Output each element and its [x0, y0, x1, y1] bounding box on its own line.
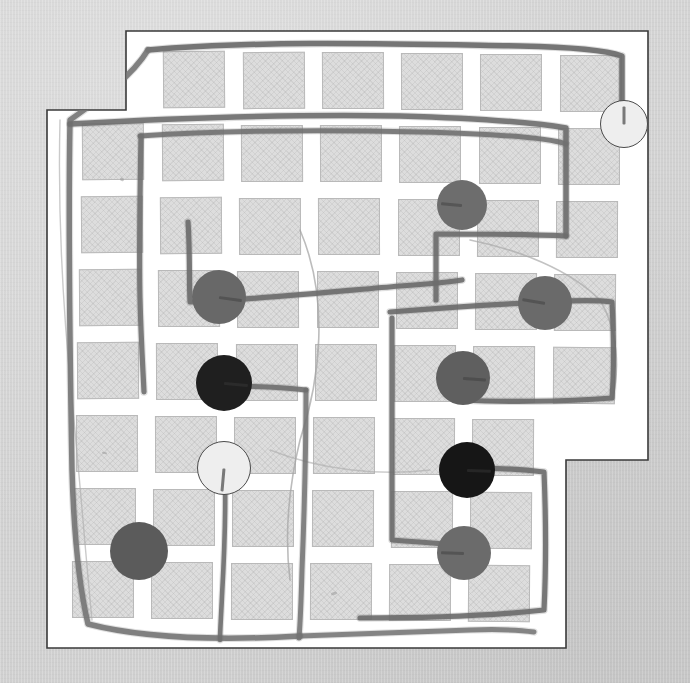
token-layer	[0, 0, 690, 683]
token-gray-bottom-left[interactable]	[110, 522, 168, 580]
token-gray-right-mid[interactable]	[518, 276, 572, 330]
token-gray-right-low[interactable]	[436, 351, 490, 405]
token-black-left[interactable]	[196, 355, 252, 411]
token-gray-left-upper[interactable]	[192, 270, 246, 324]
token-black-right-low[interactable]	[439, 442, 495, 498]
token-gray-upper-mid[interactable]	[437, 180, 487, 230]
token-white-top-right[interactable]	[600, 100, 648, 148]
token-gray-bottom-mid[interactable]	[437, 526, 491, 580]
token-white-left-low[interactable]	[197, 441, 251, 495]
screenshot-root	[0, 0, 690, 683]
